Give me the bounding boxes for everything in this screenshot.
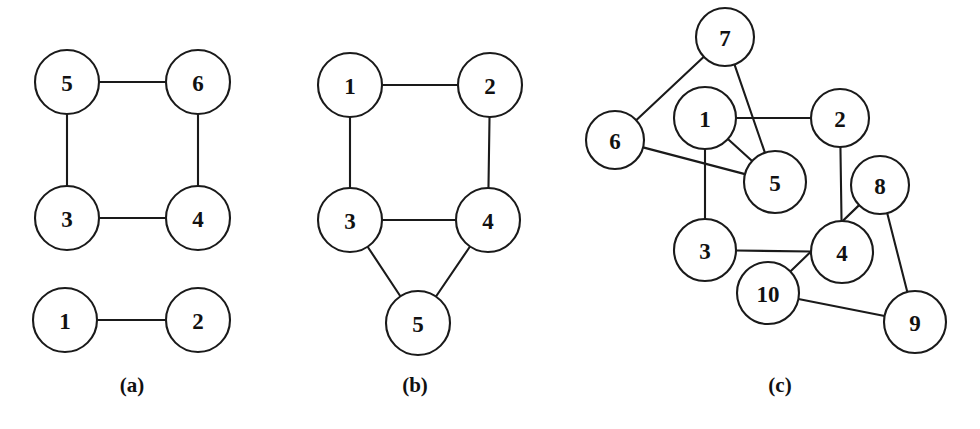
node-circle (884, 291, 946, 353)
graph-edge-3-5 (368, 247, 401, 297)
graph-node-3[interactable]: 3 (35, 186, 99, 250)
node-layer: 12345 (318, 53, 522, 355)
panels-group: 563412(a)12345(b)76125834109(c) (33, 8, 946, 397)
graph-node-5[interactable]: 5 (35, 50, 99, 114)
panel-caption-a: (a) (120, 373, 145, 397)
graph-figure-svg: 563412(a)12345(b)76125834109(c) (0, 0, 980, 429)
node-circle (586, 111, 644, 169)
node-circle (35, 50, 99, 114)
graph-node-3[interactable]: 3 (674, 219, 736, 281)
node-circle (696, 8, 754, 66)
node-circle (811, 221, 873, 283)
graph-edge-7-5 (734, 64, 764, 152)
node-circle (458, 53, 522, 117)
graph-node-2[interactable]: 2 (166, 288, 230, 352)
node-circle (737, 262, 799, 324)
graph-node-2[interactable]: 2 (458, 53, 522, 117)
node-circle (166, 288, 230, 352)
node-circle (811, 89, 869, 147)
graph-node-8[interactable]: 8 (851, 156, 909, 214)
node-circle (744, 151, 806, 213)
graph-edge-10-9 (798, 299, 884, 316)
node-circle (35, 186, 99, 250)
graph-edge-4-5 (436, 246, 470, 296)
graph-node-6[interactable]: 6 (166, 50, 230, 114)
graph-node-5[interactable]: 5 (386, 291, 450, 355)
node-layer: 563412 (33, 50, 230, 352)
node-circle (318, 53, 382, 117)
graph-node-6[interactable]: 6 (586, 111, 644, 169)
graph-node-5[interactable]: 5 (744, 151, 806, 213)
graph-edge-2-4 (840, 147, 841, 221)
node-circle (674, 87, 736, 149)
panel-caption-c: (c) (768, 373, 791, 397)
graph-edge-1-5 (728, 139, 752, 161)
graph-node-4[interactable]: 4 (166, 186, 230, 250)
graph-node-10[interactable]: 10 (737, 262, 799, 324)
figure-container: 563412(a)12345(b)76125834109(c) (0, 0, 980, 429)
node-circle (166, 50, 230, 114)
panel-caption-b: (b) (402, 373, 428, 397)
graph-node-1[interactable]: 1 (674, 87, 736, 149)
graph-node-4[interactable]: 4 (811, 221, 873, 283)
graph-node-9[interactable]: 9 (884, 291, 946, 353)
graph-node-1[interactable]: 1 (33, 288, 97, 352)
graph-node-1[interactable]: 1 (318, 53, 382, 117)
node-circle (386, 291, 450, 355)
node-circle (318, 188, 382, 252)
panel-a: 563412(a) (33, 50, 230, 397)
graph-node-7[interactable]: 7 (696, 8, 754, 66)
edge-layer (350, 85, 490, 297)
node-circle (166, 186, 230, 250)
graph-node-4[interactable]: 4 (456, 188, 520, 252)
panel-c: 76125834109(c) (586, 8, 946, 397)
graph-edge-8-9 (887, 213, 907, 292)
graph-edge-6-5 (643, 147, 745, 174)
panel-b: 12345(b) (318, 53, 522, 397)
graph-edge-2-4 (488, 117, 489, 188)
graph-node-3[interactable]: 3 (318, 188, 382, 252)
node-layer: 76125834109 (586, 8, 946, 353)
node-circle (674, 219, 736, 281)
graph-node-2[interactable]: 2 (811, 89, 869, 147)
graph-edge-3-4 (736, 250, 811, 251)
node-circle (851, 156, 909, 214)
node-circle (456, 188, 520, 252)
node-circle (33, 288, 97, 352)
